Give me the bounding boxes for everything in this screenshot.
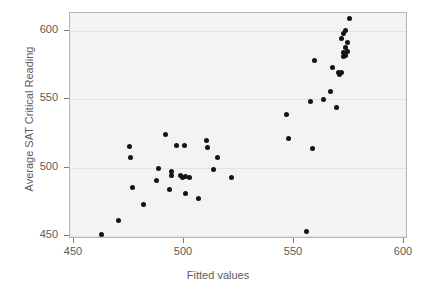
x-axis-tick-label: 450 [51, 246, 95, 257]
data-point [312, 58, 317, 63]
x-axis-tick-label: 500 [161, 246, 205, 257]
data-point [321, 97, 326, 102]
scatter-plot-figure: 450500550600 450500550600 Average SAT Cr… [0, 0, 436, 294]
gridline-horizontal [70, 236, 406, 237]
data-point [339, 70, 344, 75]
data-point [229, 175, 234, 180]
x-axis-tick-mark [293, 238, 294, 243]
x-axis-label: Fitted values [0, 269, 436, 281]
data-point [339, 36, 344, 41]
y-axis-tick-mark [64, 98, 69, 99]
data-point [128, 155, 133, 160]
x-axis-tick-mark [403, 238, 404, 243]
data-point [286, 136, 291, 141]
data-point [196, 196, 201, 201]
x-axis-tick-label: 600 [381, 246, 425, 257]
data-point [343, 28, 348, 33]
data-point [141, 202, 146, 207]
y-axis-tick-mark [64, 235, 69, 236]
data-point [205, 145, 210, 150]
x-axis-tick-mark [73, 238, 74, 243]
y-axis-tick-mark [64, 167, 69, 168]
y-axis-tick-label: 450 [18, 229, 58, 240]
data-point [330, 65, 335, 70]
data-point [187, 175, 192, 180]
data-point [204, 138, 209, 143]
x-axis-tick-label: 550 [271, 246, 315, 257]
data-point [156, 166, 161, 171]
y-axis-label: Average SAT Critical Reading [23, 47, 35, 192]
gridline-horizontal [70, 168, 406, 169]
data-point [167, 187, 172, 192]
data-point [154, 178, 159, 183]
data-point [345, 49, 350, 54]
data-point [308, 99, 313, 104]
data-point [215, 155, 220, 160]
plot-panel [69, 12, 407, 238]
data-point [116, 218, 121, 223]
data-point [345, 40, 350, 45]
data-point [334, 105, 339, 110]
y-axis-label-container: Average SAT Critical Reading [19, 9, 37, 229]
data-point [174, 143, 179, 148]
data-point [284, 112, 289, 117]
y-axis-tick-mark [64, 30, 69, 31]
data-point [183, 191, 188, 196]
data-point [347, 16, 352, 21]
data-point [130, 185, 135, 190]
data-point [127, 144, 132, 149]
data-point [328, 89, 333, 94]
data-point [99, 232, 104, 237]
gridline-horizontal [70, 99, 406, 100]
data-point [182, 143, 187, 148]
data-point [211, 167, 216, 172]
data-point [163, 132, 168, 137]
x-axis-tick-mark [183, 238, 184, 243]
plot-data-area [70, 13, 406, 237]
data-point [304, 229, 309, 234]
data-point [169, 173, 174, 178]
gridline-horizontal [70, 31, 406, 32]
data-point [310, 146, 315, 151]
